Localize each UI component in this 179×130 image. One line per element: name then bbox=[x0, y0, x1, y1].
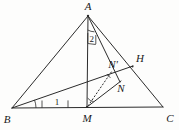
vertex-label-a: A bbox=[84, 0, 92, 12]
vertex-label-n-prime: N' bbox=[107, 58, 118, 70]
vertex-label-h: H bbox=[135, 52, 145, 64]
vertex-label-m: M bbox=[81, 112, 92, 124]
vertex-dot-a bbox=[87, 15, 89, 17]
angle-label-two: 2 bbox=[90, 34, 95, 44]
geometry-figure: A B C M H N N' 1 2 bbox=[0, 0, 179, 130]
angle-arc-b bbox=[35, 100, 37, 108]
vertex-label-n: N bbox=[116, 82, 125, 94]
angle-label-one: 1 bbox=[55, 97, 60, 107]
vertex-dot-h bbox=[132, 66, 134, 68]
vertex-label-c: C bbox=[166, 112, 174, 124]
median-AM bbox=[87, 16, 88, 107]
vertex-dot-m bbox=[86, 106, 88, 108]
geometry-canvas: A B C M H N N' 1 2 bbox=[0, 0, 179, 130]
vertex-label-b: B bbox=[4, 113, 11, 125]
segment-MN bbox=[87, 81, 121, 107]
angle-arc-a bbox=[88, 30, 95, 32]
side-AB bbox=[12, 16, 88, 108]
side-AC bbox=[88, 16, 163, 107]
